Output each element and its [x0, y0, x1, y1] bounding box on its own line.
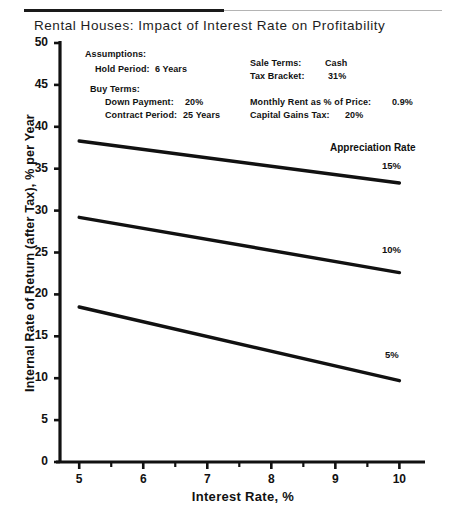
- assumption-monthly-rent-label: Monthly Rent as % of Price:: [250, 97, 371, 107]
- y-tick-label: 20: [22, 286, 48, 300]
- x-tick-label: 6: [128, 472, 158, 486]
- y-tick-label: 45: [22, 77, 48, 91]
- legend-title: Appreciation Rate: [330, 142, 416, 153]
- series-line-5: [79, 307, 399, 381]
- x-tick-label: 10: [384, 472, 414, 486]
- assumption-down-payment-label: Down Payment:: [105, 97, 174, 107]
- y-tick-label: 10: [22, 370, 48, 384]
- assumption-capital-gains-value: 20%: [345, 110, 363, 120]
- y-tick-label: 15: [22, 328, 48, 342]
- assumption-hold-period-label: Hold Period:: [95, 64, 150, 74]
- chart-plot-area: [0, 0, 452, 524]
- y-tick-label: 40: [22, 119, 48, 133]
- x-tick-label: 7: [192, 472, 222, 486]
- x-axis-label: Interest Rate, %: [60, 489, 426, 504]
- x-tick-label: 5: [64, 472, 94, 486]
- chart-page: Rental Houses: Impact of Interest Rate o…: [0, 0, 452, 524]
- y-tick-label: 30: [22, 203, 48, 217]
- series-line-10: [79, 217, 399, 272]
- assumption-contract-period-label: Contract Period:: [105, 110, 177, 120]
- y-tick-label: 35: [22, 161, 48, 175]
- assumption-sale-terms-label: Sale Terms:: [250, 58, 301, 68]
- y-tick-label: 25: [22, 245, 48, 259]
- assumption-sale-terms-value: Cash: [325, 58, 347, 68]
- assumption-down-payment-value: 20%: [185, 97, 203, 107]
- x-tick-label: 9: [320, 472, 350, 486]
- assumptions-heading: Assumptions:: [85, 49, 146, 59]
- y-tick-label: 50: [22, 35, 48, 49]
- y-tick-label: 0: [22, 454, 48, 468]
- series-label-15: 15%: [382, 160, 401, 171]
- series-label-10: 10%: [382, 244, 401, 255]
- assumption-monthly-rent-value: 0.9%: [392, 97, 413, 107]
- assumption-tax-bracket-value: 31%: [328, 71, 346, 81]
- assumption-hold-period-value: 6 Years: [155, 64, 187, 74]
- assumption-tax-bracket-label: Tax Bracket:: [250, 71, 305, 81]
- assumption-capital-gains-label: Capital Gains Tax:: [250, 110, 330, 120]
- assumption-buy-terms-label: Buy Terms:: [90, 84, 140, 94]
- chart-svg: [0, 0, 452, 524]
- x-tick-label: 8: [256, 472, 286, 486]
- assumption-contract-period-value: 25 Years: [183, 110, 220, 120]
- series-label-5: 5%: [385, 349, 399, 360]
- y-tick-label: 5: [22, 412, 48, 426]
